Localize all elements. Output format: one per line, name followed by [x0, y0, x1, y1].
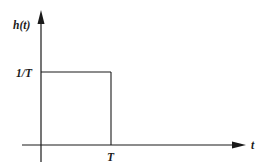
diagram-svg: h(t) 1/T T t: [0, 0, 267, 168]
y-axis-arrow-icon: [38, 10, 45, 24]
impulse-response-diagram: h(t) 1/T T t: [0, 0, 267, 168]
level-label: 1/T: [16, 67, 33, 79]
y-axis-label: h(t): [13, 19, 30, 32]
x-axis-arrow-icon: [232, 142, 246, 149]
x-axis-label: t: [251, 139, 255, 151]
time-label: T: [107, 151, 115, 163]
